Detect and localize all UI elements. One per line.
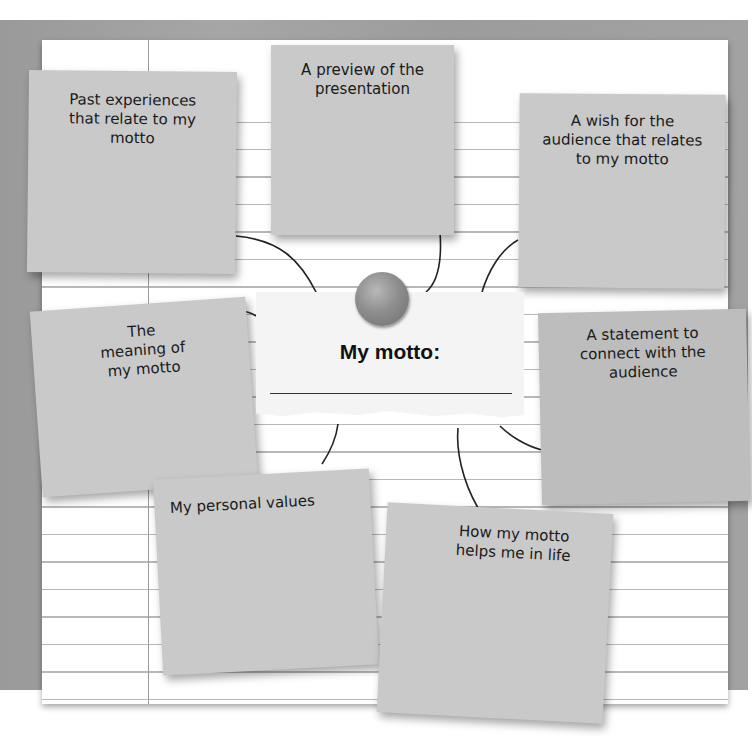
pushpin-icon bbox=[355, 272, 409, 326]
note-statement: A statement to connect with the audience bbox=[538, 309, 750, 505]
note-helps-in-life: How my motto helps me in life bbox=[377, 502, 614, 724]
note-personal-values: My personal values bbox=[153, 468, 379, 675]
motto-answer-line[interactable] bbox=[270, 393, 512, 394]
note-label: How my motto helps me in life bbox=[385, 502, 614, 568]
motto-title: My motto: bbox=[256, 340, 524, 364]
note-preview: A preview of the presentation bbox=[271, 45, 454, 235]
note-meaning: The meaning of my motto bbox=[30, 297, 258, 498]
note-label: A preview of the presentation bbox=[271, 45, 454, 99]
note-label: A wish for the audience that relates to … bbox=[519, 93, 726, 169]
note-label: A statement to connect with the audience bbox=[538, 309, 747, 384]
note-label: The meaning of my motto bbox=[30, 297, 251, 387]
note-wish: A wish for the audience that relates to … bbox=[518, 93, 725, 288]
note-past-experiences: Past experiences that relate to my motto bbox=[27, 70, 237, 274]
note-label: Past experiences that relate to my motto bbox=[28, 70, 237, 149]
